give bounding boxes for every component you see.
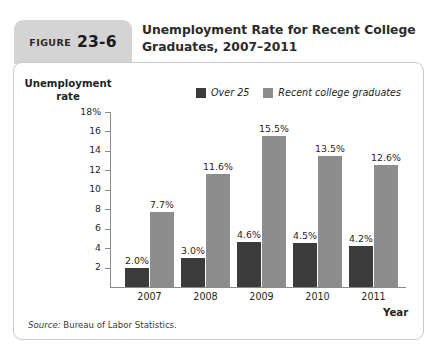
bar-group: 2.0%7.7% [125,112,174,287]
figure-number: 23-6 [77,33,117,51]
legend-label-over-25: Over 25 [211,87,249,98]
y-axis-tick: 18% [105,112,110,113]
y-axis-title: Unemployment rate [22,78,114,103]
legend-item-recent-college-graduates: Recent college graduates [263,87,401,98]
x-axis-tick-label: 2010 [293,291,342,302]
bar-group: 4.2%12.6% [349,112,398,287]
y-axis-tick: 10 [105,190,110,191]
y-axis-tick-label: 4 [95,242,101,253]
y-axis-tick-label: 2 [95,261,101,272]
x-axis-tick-label: 2007 [125,291,174,302]
page-title: Unemployment Rate for Recent College Gra… [142,22,422,55]
y-axis-tick-label: 18% [80,106,101,117]
x-axis-line [110,287,406,288]
legend-item-over-25: Over 25 [196,87,249,98]
figure-tab: FIGURE 23-6 [14,20,132,64]
bar-data-label: 11.6% [203,161,233,172]
x-axis-title: Year [383,307,408,318]
y-axis-tick-label: 8 [95,203,101,214]
bar-data-label: 13.5% [315,143,345,154]
bar-over-25[interactable]: 2.0% [125,268,149,287]
bar-data-label: 3.0% [181,245,205,256]
bar-group: 3.0%11.6% [181,112,230,287]
y-axis-tick: 2 [105,268,110,269]
bar-over-25[interactable]: 4.6% [237,242,261,287]
y-axis-tick-label: 6 [95,222,101,233]
bar-over-25[interactable]: 3.0% [181,258,205,287]
source-text: Bureau of Labor Statistics. [63,320,176,330]
bar-group: 4.6%15.5% [237,112,286,287]
x-axis-tick-label: 2009 [237,291,286,302]
bar-data-label: 7.7% [150,199,174,210]
source-prefix: Source: [28,320,61,330]
bar-data-label: 2.0% [125,255,149,266]
y-axis-tick: 6 [105,229,110,230]
legend-label-recent-college-graduates: Recent college graduates [278,87,401,98]
y-axis-tick: 14 [105,151,110,152]
bar-group: 4.5%13.5% [293,112,342,287]
bar-over-25[interactable]: 4.2% [349,246,373,287]
x-axis-tick-label: 2011 [349,291,398,302]
source-note: Source: Bureau of Labor Statistics. [28,320,177,330]
bar-recent-college-graduates[interactable]: 15.5% [262,136,286,287]
plot-area: 18%161412108642 2.0%7.7%3.0%11.6%4.6%15.… [110,112,406,288]
y-axis-tick-label: 14 [89,144,101,155]
figure-label-word: FIGURE [29,37,71,48]
chart-legend: Over 25 Recent college graduates [196,87,401,98]
bar-data-label: 12.6% [371,152,401,163]
y-axis-tick-label: 10 [89,183,101,194]
bar-recent-college-graduates[interactable]: 12.6% [374,165,398,288]
bar-data-label: 4.2% [349,233,373,244]
y-axis-line [110,112,111,288]
bar-data-label: 4.6% [237,229,261,240]
bar-recent-college-graduates[interactable]: 13.5% [318,156,342,287]
bar-data-label: 4.5% [293,230,317,241]
y-axis-tick-label: 16 [89,125,101,136]
x-axis-tick-label: 2008 [181,291,230,302]
y-axis-tick: 16 [105,131,110,132]
legend-swatch-recent-college-graduates [263,88,273,98]
y-axis-tick: 4 [105,248,110,249]
bar-data-label: 15.5% [259,123,289,134]
y-axis-tick-label: 12 [89,164,101,175]
y-axis-tick: 8 [105,209,110,210]
legend-swatch-over-25 [196,88,206,98]
bar-recent-college-graduates[interactable]: 7.7% [150,212,174,287]
bar-over-25[interactable]: 4.5% [293,243,317,287]
bar-recent-college-graduates[interactable]: 11.6% [206,174,230,287]
y-axis-tick: 12 [105,170,110,171]
